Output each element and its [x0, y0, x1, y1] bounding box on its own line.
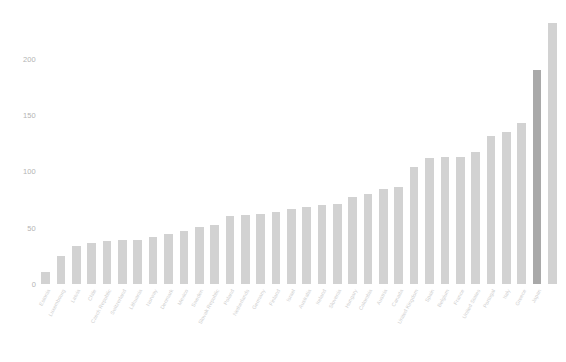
bar-rect: [379, 189, 388, 284]
bar-rect: [394, 187, 403, 284]
bar[interactable]: [41, 8, 50, 284]
x-tick-label: Australia: [297, 288, 312, 309]
bar-rect: [72, 246, 81, 284]
x-tick-label: Sweden: [190, 288, 204, 308]
x-tick-label: Denmark: [158, 288, 174, 310]
bar-rect: [103, 241, 112, 284]
x-tick-label: Italy: [502, 288, 512, 300]
x-tick-label: Finland: [268, 288, 282, 306]
bar-rect: [456, 157, 465, 284]
x-tick-label: Lithuania: [127, 288, 143, 310]
x-tick-label: Japan: [530, 288, 542, 304]
bar-rect: [226, 216, 235, 284]
x-tick-label: Poland: [222, 288, 235, 306]
bar[interactable]: [164, 8, 173, 284]
bar-rect: [364, 194, 373, 284]
bar[interactable]: [149, 8, 158, 284]
bar-rect: [410, 167, 419, 284]
bar-rect: [164, 234, 173, 284]
bar[interactable]: [533, 8, 542, 284]
x-axis: EstoniaLuxembourgLatviaChileCzech Republ…: [38, 284, 560, 362]
bar-rect: [241, 215, 250, 284]
bar-rect: [517, 123, 526, 284]
bar-rect: [195, 227, 204, 284]
bar[interactable]: [180, 8, 189, 284]
x-tick-label: Ireland: [314, 288, 327, 305]
bar[interactable]: [256, 8, 265, 284]
x-tick-label: Estonia: [37, 288, 51, 307]
x-tick-label: Spain: [423, 288, 435, 303]
bar[interactable]: [456, 8, 465, 284]
bar[interactable]: [287, 8, 296, 284]
x-tick-label: Israel: [285, 288, 297, 303]
bar-rect: [318, 205, 327, 284]
bar[interactable]: [57, 8, 66, 284]
bar[interactable]: [333, 8, 342, 284]
x-tick-label: Germany: [250, 288, 266, 310]
bar[interactable]: [118, 8, 127, 284]
y-axis: 050100150200: [0, 0, 40, 362]
bar-rect: [348, 197, 357, 284]
x-tick-label: Mexico: [176, 288, 189, 306]
bar-rect: [272, 212, 281, 284]
bar-rect: [41, 272, 50, 284]
x-tick-label: Hungary: [343, 288, 358, 309]
bar[interactable]: [103, 8, 112, 284]
x-tick-label: Portugal: [481, 288, 496, 309]
y-tick-label: 0: [32, 280, 36, 289]
y-tick-label: 200: [23, 54, 36, 63]
bar[interactable]: [195, 8, 204, 284]
bar[interactable]: [394, 8, 403, 284]
bar-rect: [57, 256, 66, 284]
bar-rect: [502, 132, 511, 284]
x-tick-label: Norway: [145, 288, 159, 307]
bar-rect: [87, 243, 96, 284]
bar-chart: 050100150200 EstoniaLuxembourgLatviaChil…: [0, 0, 566, 362]
x-tick-label: France: [452, 288, 465, 306]
bar-highlighted: [533, 70, 542, 284]
bar[interactable]: [548, 8, 557, 284]
y-tick-label: 100: [23, 167, 36, 176]
bar[interactable]: [241, 8, 250, 284]
x-tick-label: Switzerland: [109, 288, 127, 315]
x-tick-label: Belgium: [436, 288, 450, 308]
bar[interactable]: [272, 8, 281, 284]
bar[interactable]: [487, 8, 496, 284]
bar[interactable]: [410, 8, 419, 284]
bar[interactable]: [302, 8, 311, 284]
x-tick-label: Slovenia: [328, 288, 343, 309]
x-tick-label: Chile: [86, 288, 97, 302]
x-tick-label: Austria: [376, 288, 389, 306]
bar[interactable]: [318, 8, 327, 284]
bar[interactable]: [502, 8, 511, 284]
bar[interactable]: [364, 8, 373, 284]
y-tick-label: 150: [23, 111, 36, 120]
bar[interactable]: [471, 8, 480, 284]
x-tick-label: Canada: [390, 288, 404, 307]
bar-rect: [256, 214, 265, 284]
bar-rect: [133, 240, 142, 284]
bar[interactable]: [87, 8, 96, 284]
bar[interactable]: [441, 8, 450, 284]
bar-rect: [471, 152, 480, 284]
plot-area: [38, 8, 560, 284]
bar-rect: [302, 207, 311, 284]
x-tick-label: Colombia: [357, 288, 373, 311]
bar[interactable]: [348, 8, 357, 284]
bar[interactable]: [425, 8, 434, 284]
bar-rect: [548, 23, 557, 284]
bar-rect: [149, 237, 158, 284]
bar[interactable]: [517, 8, 526, 284]
bar[interactable]: [133, 8, 142, 284]
bar[interactable]: [72, 8, 81, 284]
bar[interactable]: [226, 8, 235, 284]
bar-rect: [333, 204, 342, 284]
bar-rect: [180, 231, 189, 284]
x-tick-label: Greece: [513, 288, 527, 306]
bar[interactable]: [210, 8, 219, 284]
bar[interactable]: [379, 8, 388, 284]
bar-rect: [425, 158, 434, 284]
bar-rect: [487, 136, 496, 284]
y-tick-label: 50: [27, 223, 36, 232]
x-tick-label: Latvia: [70, 288, 82, 304]
